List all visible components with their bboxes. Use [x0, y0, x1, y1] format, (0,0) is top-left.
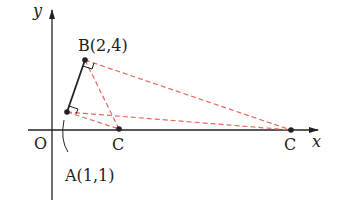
point-c2	[288, 127, 294, 133]
right-angle-mark-b	[83, 63, 94, 69]
point-c1-label: C	[112, 137, 124, 153]
origin-label: O	[34, 136, 47, 152]
y-axis-label: y	[33, 3, 42, 19]
arc-mark	[63, 120, 68, 152]
point-a	[64, 109, 70, 115]
diagram-graphics	[0, 0, 347, 211]
point-c1	[116, 126, 122, 132]
dashed-lines	[67, 60, 291, 130]
point-b	[82, 57, 88, 63]
point-b-label: B(2,4)	[78, 38, 128, 54]
segment-ab	[67, 60, 85, 112]
point-a-label: A(1,1)	[65, 168, 114, 184]
x-axis-label: x	[312, 134, 321, 150]
coordinate-diagram: y x O B(2,4) A(1,1) C C	[0, 0, 347, 211]
point-c2-label: C	[284, 137, 296, 153]
